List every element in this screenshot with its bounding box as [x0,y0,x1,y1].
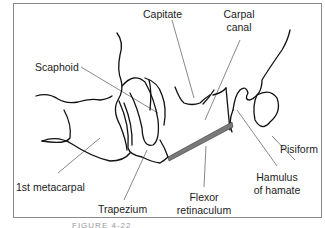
figure-caption: FIGURE 4-22 [72,221,131,228]
label-flexor-line2: retinaculum [172,204,236,216]
label-scaphoid: Scaphoid [35,61,79,73]
label-capitate: Capitate [143,8,182,20]
label-flexor-line1: Flexor [172,191,236,203]
label-carpal-canal-line2: canal [219,21,259,33]
label-hamulus-line2: of hamate [248,184,306,196]
label-hamulus-line1: Hamulus [248,171,306,183]
label-1st-metacarpal: 1st metacarpal [16,181,85,193]
bone-outlines [36,30,290,163]
label-carpal-canal-line1: Carpal [219,8,259,20]
label-pisiform: Pisiform [280,143,318,155]
label-trapezium: Trapezium [98,203,147,215]
flexor-retinaculum-band [168,122,233,161]
